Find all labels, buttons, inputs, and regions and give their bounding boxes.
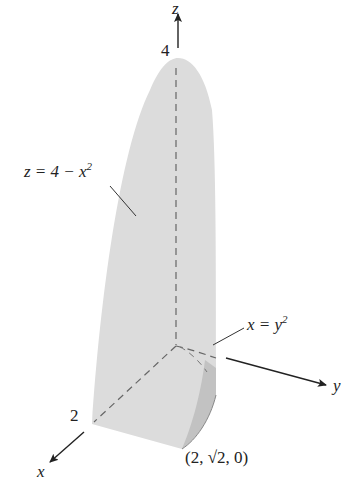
y-axis-label: y: [333, 377, 341, 394]
z-axis-label: z: [172, 0, 179, 17]
leader-cylinder: [213, 328, 244, 345]
surface-equation-label: z = 4 − x2: [24, 163, 92, 180]
solid-diagram: [0, 0, 362, 498]
surface-eq-exp: 2: [87, 160, 93, 172]
surface-eq-text: z = 4 − x: [24, 162, 87, 181]
x-axis-label: x: [37, 463, 45, 480]
x-axis-arrow: [50, 432, 84, 462]
z-tick-4: 4: [161, 42, 170, 59]
cylinder-equation-label: x = y2: [247, 316, 288, 333]
surface-z-4-minus-x2: [92, 58, 216, 449]
corner-point-label: (2, √2, 0): [185, 449, 248, 466]
cylinder-eq-exp: 2: [282, 313, 288, 325]
cylinder-eq-text: x = y: [247, 315, 282, 334]
x-tick-2: 2: [70, 407, 79, 424]
y-axis-arrow: [226, 358, 326, 385]
